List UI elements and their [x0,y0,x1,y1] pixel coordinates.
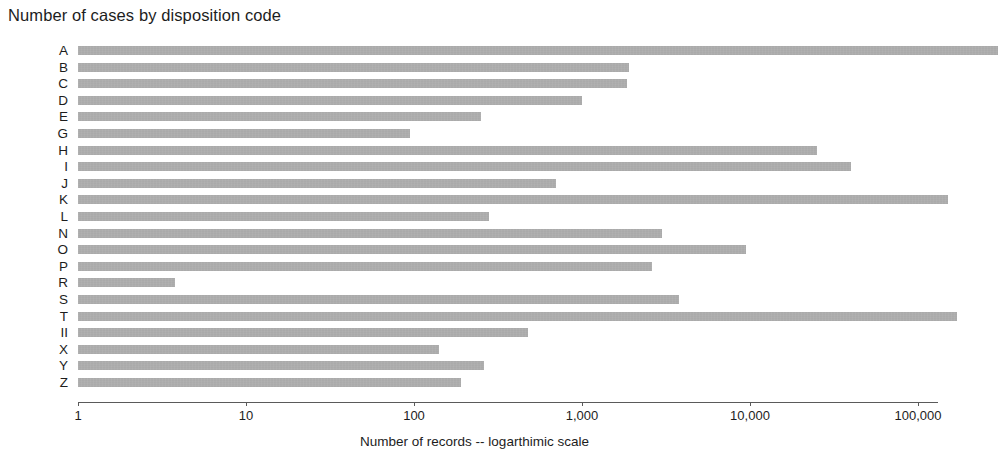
bar-row: A [0,43,949,59]
bar-track [78,309,938,325]
bar-row: P [0,259,949,275]
bar [78,378,461,387]
bar-track [78,126,938,142]
x-axis-label: Number of records -- logarthimic scale [0,434,949,449]
bar-row: S [0,292,949,308]
bar [78,328,528,337]
x-tick-label: 1,000 [566,408,599,423]
bar-row: K [0,192,949,208]
category-label: J [0,176,68,192]
category-label: I [0,159,68,175]
category-label: II [0,325,68,341]
bar-track [78,209,938,225]
page-title: Number of cases by disposition code [8,6,281,25]
bar [78,345,439,354]
category-label: R [0,275,68,291]
category-label: E [0,109,68,125]
bar-row: B [0,60,949,76]
bar-row: X [0,342,949,358]
bar [78,179,556,188]
bar-track [78,375,938,391]
x-tick-label: 1 [74,408,81,423]
x-tick-label: 10,000 [730,408,770,423]
x-tick-mark [750,402,751,406]
bar [78,96,582,105]
bar-row: O [0,242,949,258]
bar [78,46,998,55]
bar [78,129,410,138]
category-label: X [0,342,68,358]
bar [78,295,679,304]
bar [78,262,652,271]
x-tick-mark [582,402,583,406]
category-label: S [0,292,68,308]
bar-row: Y [0,358,949,374]
bar-track [78,176,938,192]
bar [78,229,662,238]
bar-track [78,358,938,374]
category-label: T [0,309,68,325]
category-label: Y [0,358,68,374]
bar-track [78,342,938,358]
bar-track [78,93,938,109]
x-tick-mark [414,402,415,406]
bar-track [78,226,938,242]
bar [78,146,817,155]
x-axis-line [78,402,938,403]
x-tick-mark [78,402,79,406]
x-tick-label: 10 [239,408,253,423]
plot-area: ABCDEGHIJKLNOPRSTIIXYZ [0,40,949,402]
bar [78,162,851,171]
bar-track [78,325,938,341]
bar [78,361,484,370]
bar-row: I [0,159,949,175]
x-tick-mark [246,402,247,406]
bar-track [78,143,938,159]
category-label: P [0,259,68,275]
category-label: Z [0,375,68,391]
bar-row: L [0,209,949,225]
bar-row: Z [0,375,949,391]
bar-row: J [0,176,949,192]
bar [78,79,627,88]
bar-track [78,76,938,92]
category-label: H [0,143,68,159]
x-tick-label: 100,000 [895,408,942,423]
bar [78,195,948,204]
bar [78,312,957,321]
bar-track [78,159,938,175]
bar-track [78,60,938,76]
category-label: G [0,126,68,142]
bar-row: N [0,226,949,242]
category-label: O [0,242,68,258]
bar-track [78,259,938,275]
bar-row: G [0,126,949,142]
bar-track [78,192,938,208]
bar-row: R [0,275,949,291]
category-label: D [0,93,68,109]
bar-row: H [0,143,949,159]
category-label: B [0,60,68,76]
bar [78,278,175,287]
bar-row: II [0,325,949,341]
bar [78,112,481,121]
bar [78,245,746,254]
bar-row: D [0,93,949,109]
category-label: N [0,226,68,242]
category-label: L [0,209,68,225]
category-label: C [0,76,68,92]
bar-track [78,109,938,125]
category-label: K [0,192,68,208]
bar [78,212,489,221]
bar [78,63,629,72]
bar-row: C [0,76,949,92]
bar-track [78,43,938,59]
x-tick-label: 100 [403,408,425,423]
bar-track [78,275,938,291]
bar-track [78,292,938,308]
category-label: A [0,43,68,59]
bar-track [78,242,938,258]
bar-row: E [0,109,949,125]
bar-row: T [0,309,949,325]
